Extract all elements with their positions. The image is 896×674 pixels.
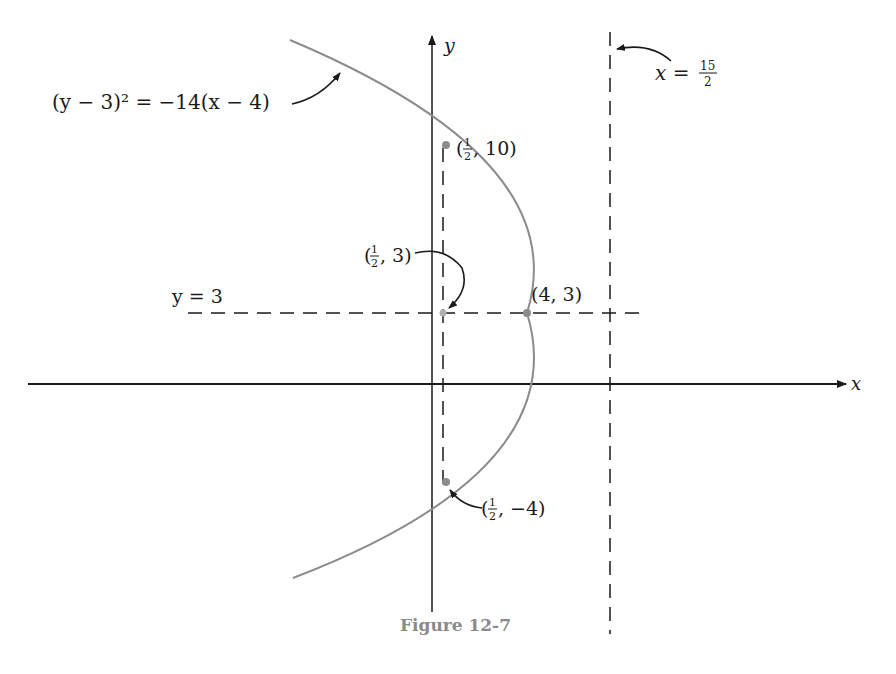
svg-text:(: (	[456, 137, 463, 159]
svg-text:2: 2	[489, 510, 496, 523]
point-bottom-label: ( 1 2 , −4)	[481, 496, 546, 523]
figure-caption: Figure 12-7	[400, 615, 511, 635]
svg-text:1: 1	[489, 496, 496, 509]
point-top	[442, 141, 450, 149]
point-focus-label: ( 1 2 , 3)	[364, 243, 412, 270]
svg-text:, 10): , 10)	[473, 137, 517, 159]
point-focus	[440, 310, 447, 317]
svg-text:2: 2	[704, 75, 712, 89]
svg-text:(: (	[481, 497, 488, 519]
svg-text:1: 1	[371, 243, 378, 256]
svg-text:2: 2	[371, 257, 378, 270]
x-axis-label: x	[851, 373, 861, 394]
point-bottom	[442, 478, 450, 486]
svg-text:1: 1	[464, 136, 471, 149]
equation-label: (y − 3)² = −14(x − 4)	[52, 90, 270, 114]
point-vertex	[523, 309, 531, 317]
equation-arrow	[292, 73, 340, 104]
directrix-arrow	[617, 47, 671, 61]
point-vertex-label: (4, 3)	[531, 283, 582, 305]
svg-text:15: 15	[700, 59, 715, 73]
axis-of-symmetry-label: y = 3	[171, 285, 223, 307]
svg-text:, −4): , −4)	[498, 497, 546, 519]
svg-text:x =: x =	[655, 61, 689, 85]
svg-text:2: 2	[464, 150, 471, 163]
point-top-label: ( 1 2 , 10)	[456, 136, 517, 163]
parabola-figure: x y y = 3 (y − 3)² = −14(x − 4) x = 15 2…	[0, 0, 896, 674]
focus-arrow	[415, 251, 464, 308]
svg-text:, 3): , 3)	[380, 244, 412, 266]
directrix-label: x = 15 2	[655, 59, 717, 89]
y-axis-label: y	[443, 34, 455, 56]
